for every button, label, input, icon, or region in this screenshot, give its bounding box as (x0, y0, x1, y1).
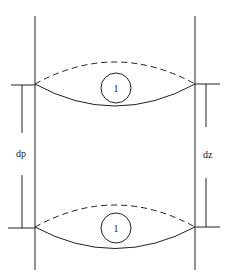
fluid-element-diagram: 1 1 dp dz (0, 0, 230, 280)
left-dimension-label: dp (16, 148, 26, 159)
bottom-marker-label: 1 (114, 223, 119, 234)
top-marker-label: 1 (114, 83, 119, 94)
right-dimension-label: dz (203, 149, 213, 160)
